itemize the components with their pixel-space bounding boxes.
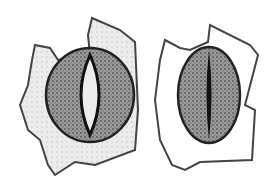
closed-stoma (155, 25, 258, 170)
stomata-diagram (0, 0, 271, 191)
open-stoma (20, 18, 138, 175)
